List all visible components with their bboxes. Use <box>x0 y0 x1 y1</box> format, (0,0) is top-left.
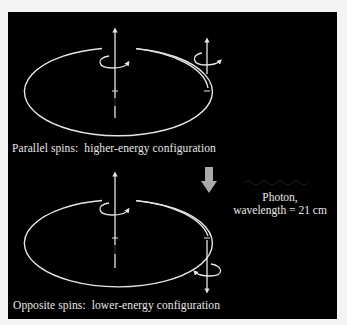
spin-flip-diagram <box>0 0 347 325</box>
top-configuration <box>24 30 220 136</box>
photon-wave-icon <box>244 181 308 185</box>
proton-spin-up-icon <box>100 174 128 268</box>
caption-parallel-spins: Parallel spins: higher-energy configurat… <box>12 142 216 154</box>
photon-label-line2: wavelength = 21 cm <box>226 204 334 217</box>
down-arrow-icon <box>201 167 217 193</box>
caption-opposite-spins: Opposite spins: lower-energy configurati… <box>13 299 220 311</box>
photon-label: Photon, wavelength = 21 cm <box>226 191 334 217</box>
electron-spin-down-icon <box>195 238 221 291</box>
photon-label-line1: Photon, <box>226 191 334 204</box>
transition <box>201 167 308 193</box>
bottom-configuration <box>24 174 220 291</box>
proton-spin-up-icon <box>100 30 128 118</box>
